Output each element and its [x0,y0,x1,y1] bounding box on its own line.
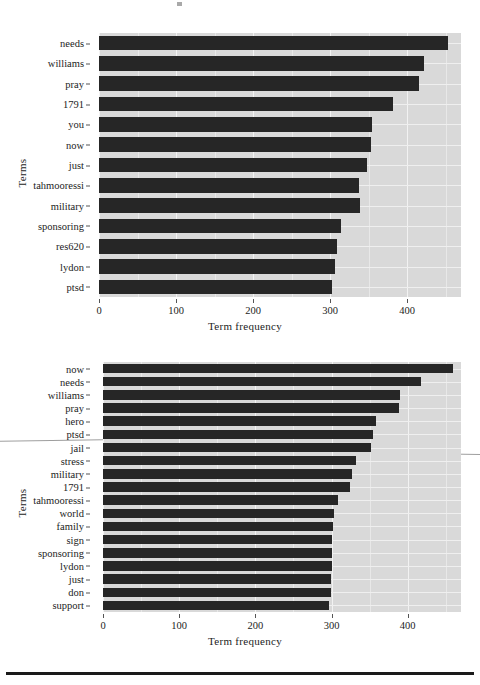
y-tick-label: now [66,139,84,150]
x-axis-title-bottom: Term frequency [30,635,460,647]
bar-sign [103,535,332,544]
bar-needs [103,377,421,386]
bar-now [99,137,371,152]
x-axis-title-top: Term frequency [30,320,460,332]
y-tick-label: williams [48,58,84,69]
y-tick-label: now [66,363,84,374]
x-tick-mark [99,299,100,303]
x-tick-mark [179,614,180,618]
y-tick-label: sign [66,534,84,545]
bar-lydon [99,259,335,274]
y-tick-label: res620 [56,241,84,252]
y-tick-label: military [51,200,84,211]
y-tick-label: needs [60,38,84,49]
y-tick-label: 1791 [63,99,84,110]
y-tick-label: williams [48,389,84,400]
y-tick-label: sponsoring [38,547,84,558]
y-tick-label: ptsd [66,429,84,440]
bar-stress [103,456,356,465]
x-tick-mark [332,614,333,618]
y-tick-label: you [68,119,84,130]
bar-williams [99,56,424,71]
y-tick-label: needs [60,376,84,387]
x-tick-label: 400 [399,305,415,316]
y-tick-label: world [60,508,85,519]
x-tick-label: 400 [400,620,416,631]
y-tick-label: support [53,600,85,611]
bar-needs [99,36,448,51]
bar-support [103,601,329,610]
bar-pray [99,76,419,91]
x-tick-mark [407,299,408,303]
plot-area-top [99,33,461,297]
x-tick-mark [176,299,177,303]
bar-just [103,574,331,583]
bar-ptsd [103,430,373,439]
plot-area-bottom [103,362,461,612]
chart-figure-top: Terms needswilliamspray1791younowjusttah… [0,0,480,345]
y-tick-label: don [68,587,84,598]
bar-williams [103,390,400,399]
bar-just [99,158,367,173]
x-tick-label: 0 [100,620,105,631]
bar-don [103,588,331,597]
y-tick-label: just [69,160,84,171]
x-tick-mark [103,614,104,618]
x-tick-mark [408,614,409,618]
x-tick-label: 200 [247,620,263,631]
y-tick-label: 1791 [63,482,84,493]
y-tick-label: stress [61,455,84,466]
x-tick-label: 0 [96,305,101,316]
page-footer-rule [6,672,474,675]
bar-tahmooressi [103,495,338,504]
y-tick-label: military [51,468,84,479]
bar-military [103,469,352,478]
bar-sponsoring [103,548,332,557]
bar-sponsoring [99,219,341,234]
y-tick-label: hero [65,416,84,427]
bar-1791 [103,482,350,491]
x-tick-label: 300 [322,305,338,316]
chart-figure-bottom: Terms nowneedswilliamsprayheroptsdjailst… [0,345,480,660]
y-tick-label: lydon [60,560,84,571]
x-axis-tick-labels-top: 0100200300400 [99,299,461,319]
x-tick-mark [330,299,331,303]
x-axis-tick-labels-bottom: 0100200300400 [103,614,461,634]
y-axis-tick-labels-top: needswilliamspray1791younowjusttahmoores… [0,33,92,297]
bar-you [99,117,372,132]
y-tick-label: jail [71,442,84,453]
bar-now [103,364,453,373]
bar-pray [103,403,399,412]
y-tick-label: tahmooressi [33,495,84,506]
y-tick-label: pray [65,78,84,89]
x-tick-label: 300 [324,620,340,631]
bar-lydon [103,561,332,570]
bar-ptsd [99,280,332,295]
bar-jail [103,443,371,452]
y-tick-label: tahmooressi [33,180,84,191]
y-tick-label: just [69,574,84,585]
x-tick-mark [253,299,254,303]
x-tick-label: 100 [168,305,184,316]
bar-tahmooressi [99,178,359,193]
bar-1791 [99,97,393,112]
y-tick-label: ptsd [66,281,84,292]
y-tick-label: sponsoring [38,220,84,231]
bar-res620 [99,239,337,254]
bar-family [103,522,333,531]
y-tick-label: pray [65,403,84,414]
y-tick-label: lydon [60,261,84,272]
bar-world [103,509,334,518]
x-tick-mark [255,614,256,618]
y-axis-tick-labels-bottom: nowneedswilliamsprayheroptsdjailstressmi… [0,362,92,612]
x-tick-label: 200 [245,305,261,316]
x-tick-label: 100 [171,620,187,631]
bar-military [99,198,360,213]
y-tick-label: family [57,521,84,532]
bar-hero [103,416,376,425]
